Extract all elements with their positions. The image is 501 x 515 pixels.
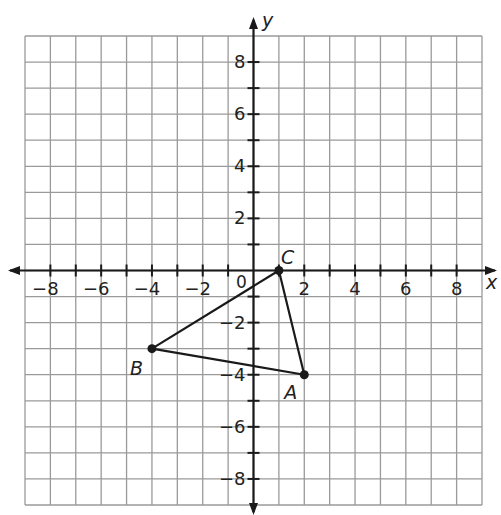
y-tick-label: −2 [219, 312, 246, 333]
y-axis-label: y [261, 9, 274, 31]
coordinate-plane: −8−6−4−22468−8−6−4−22468 ABC x y 0 [0, 0, 501, 515]
y-tick-label: −4 [219, 364, 246, 385]
y-tick-label: −8 [219, 468, 246, 489]
y-tick-label: 8 [234, 51, 245, 72]
x-tick-label: −2 [184, 278, 211, 299]
x-tick-label: 8 [451, 278, 462, 299]
y-tick-label: 4 [234, 155, 245, 176]
axes [8, 17, 497, 515]
vertex-label-c: C [281, 246, 295, 268]
origin-label: 0 [236, 272, 247, 292]
vertex-a [300, 370, 309, 379]
y-tick-label: 6 [234, 103, 245, 124]
vertex-label-a: A [282, 381, 297, 403]
y-axis-down-arrow-icon [249, 503, 258, 515]
y-tick-label: −6 [219, 416, 246, 437]
x-tick-label: −8 [32, 278, 59, 299]
x-tick-label: 6 [400, 278, 411, 299]
y-axis-up-arrow-icon [249, 17, 258, 29]
x-tick-label: 4 [349, 278, 360, 299]
vertex-label-b: B [130, 357, 143, 379]
y-tick-label: 2 [234, 207, 245, 228]
vertex-b [147, 344, 156, 353]
x-tick-label: −6 [83, 278, 110, 299]
x-tick-label: −4 [134, 278, 161, 299]
x-axis-left-arrow-icon [8, 266, 20, 275]
x-axis-label: x [485, 271, 498, 293]
x-tick-label: 2 [299, 278, 310, 299]
